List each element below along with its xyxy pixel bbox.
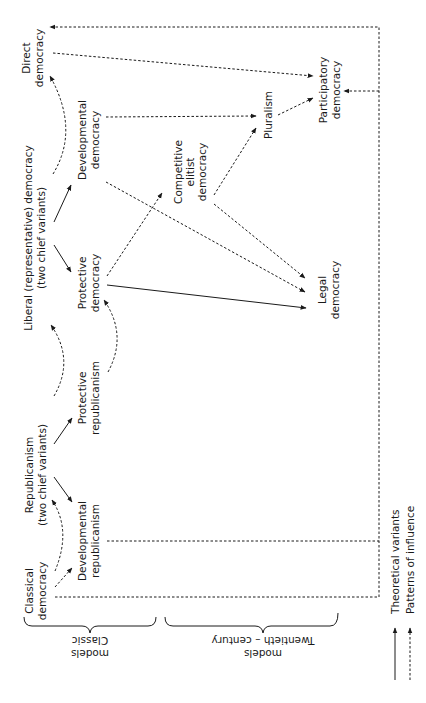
arrow-competitive-elitist-to-legal-democracy: [214, 204, 305, 278]
group-label-twentieth-century-models: models Twentieth – century: [212, 635, 316, 660]
arrow-competitive-elitist-to-pluralism: [214, 128, 256, 195]
label-line: (two chief variants): [36, 424, 48, 526]
node-protective-republicanism: Protective republicanism: [76, 361, 101, 435]
democracy-models-diagram: Direct democracy Liberal (representative…: [0, 0, 426, 703]
label-line: democracy: [196, 143, 208, 201]
group-label-classic-models: models Classic: [71, 635, 109, 660]
node-developmental-republicanism: Developmental republicanism: [76, 501, 101, 581]
arrow-liberal-to-developmental-democracy: [54, 185, 71, 222]
legend-label: Theoretical variants: [389, 509, 401, 615]
label-line: democracy: [89, 111, 101, 169]
arrow-classical-to-developmental-republicanism: [55, 568, 72, 587]
arrow-protective-democracy-to-competitive-elitist: [107, 193, 162, 276]
legend-theoretical-variants: Theoretical variants: [389, 509, 401, 615]
label-line: Direct: [20, 42, 32, 73]
label-line: Legal: [316, 276, 328, 304]
arrow-pluralism-to-participatory: [278, 98, 313, 115]
arrow-developmental-democracy-to-pluralism: [106, 116, 256, 117]
node-protective-democracy: Protective democracy: [76, 254, 101, 312]
label-line: Twentieth – century: [212, 635, 316, 647]
node-competitive-elitist-democracy: Competitive elitist democracy: [172, 140, 208, 204]
node-legal-democracy: Legal democracy: [316, 261, 341, 319]
node-classical-democracy: Classical democracy: [23, 562, 48, 620]
label-line: republicanism: [89, 361, 101, 435]
label-line: democracy: [329, 261, 341, 319]
label-line: democracy: [36, 562, 48, 620]
label-line: democracy: [33, 29, 45, 87]
node-republicanism: Republicanism (two chief variants): [23, 424, 48, 526]
brace-twentieth-century-models: [165, 613, 338, 633]
legend-label: Patterns of influence: [404, 506, 416, 614]
label-line: Developmental: [76, 100, 88, 180]
arrow-direct-to-participatory: [53, 53, 313, 76]
label-line: (two chief variants): [35, 187, 47, 289]
label-line: Pluralism: [262, 91, 274, 139]
arrow-classical-to-republicanism: [52, 500, 63, 571]
label-line: Participatory: [317, 57, 329, 124]
arrow-republicanism-to-protective-republicanism: [54, 418, 72, 444]
label-line: elitist: [184, 158, 196, 187]
label-line: models: [244, 648, 282, 660]
label-line: democracy: [89, 254, 101, 312]
label-line: Classical: [23, 568, 35, 614]
node-developmental-democracy: Developmental democracy: [76, 100, 101, 180]
legend-patterns-of-influence: Patterns of influence: [404, 506, 416, 614]
label-line: Liberal (representative) democracy: [22, 145, 34, 330]
label-line: Competitive: [172, 140, 184, 204]
label-line: Protective: [76, 257, 88, 310]
node-direct-democracy: Direct democracy: [20, 29, 45, 87]
arrow-liberal-to-direct: [50, 76, 66, 174]
arrow-protective-republicanism-to-protective-democracy: [104, 300, 117, 372]
label-line: Republicanism: [23, 437, 35, 514]
arrow-republicanism-to-developmental-republicanism: [54, 477, 72, 502]
arrow-liberal-to-protective-democracy: [54, 245, 71, 272]
label-line: Developmental: [76, 501, 88, 581]
arrow-republicanism-to-liberal: [51, 325, 64, 396]
label-line: Protective: [76, 372, 88, 425]
node-pluralism: Pluralism: [262, 91, 274, 139]
node-liberal-democracy: Liberal (representative) democracy (two …: [22, 145, 47, 330]
label-line: democracy: [330, 61, 342, 119]
label-line: Classic: [72, 635, 109, 647]
label-line: models: [71, 648, 109, 660]
node-participatory-democracy: Participatory democracy: [317, 57, 342, 124]
label-line: republicanism: [89, 504, 101, 578]
arrow-protective-democracy-to-legal-democracy: [107, 285, 306, 308]
